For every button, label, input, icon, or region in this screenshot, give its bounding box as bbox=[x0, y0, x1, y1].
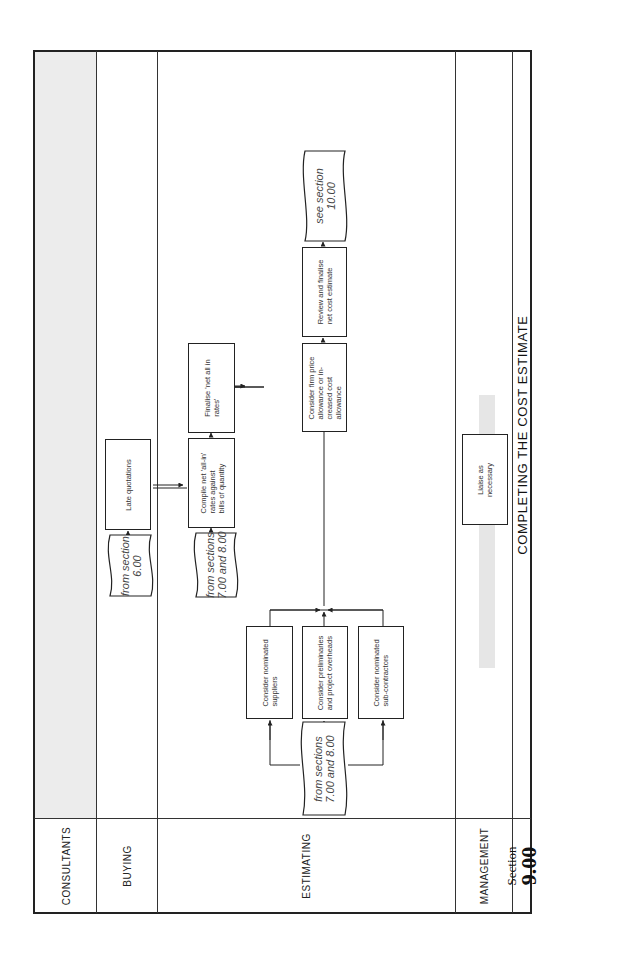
review-finalise-box: Review and finalise net cost estimate bbox=[302, 247, 347, 337]
doc-from-sections-7-8-mid: from sections 7.00 and 8.00 bbox=[196, 533, 236, 597]
consider-preliminaries-box: Consider preliminaries and project overh… bbox=[302, 626, 348, 719]
late-quotations-box: Late quotations bbox=[105, 439, 151, 530]
doc-see-section-10: see section 10.00 bbox=[305, 151, 345, 241]
doc-from-sections-7-8-left: from sections 7.00 and 8.00 bbox=[303, 722, 345, 815]
consider-subcontractors-box: Consider nominated sub-contractors bbox=[358, 626, 404, 719]
compile-rates-box: Compile net 'all-in' rates against bills… bbox=[188, 438, 235, 528]
consider-suppliers-box: Consider nominated suppliers bbox=[246, 626, 293, 719]
firm-price-box: Consider firm price allowance or in- cre… bbox=[302, 343, 347, 432]
finalise-rates-box: Finalise 'net all in rates' bbox=[188, 343, 235, 433]
doc-from-section-6: from section 6.00 bbox=[110, 535, 151, 596]
